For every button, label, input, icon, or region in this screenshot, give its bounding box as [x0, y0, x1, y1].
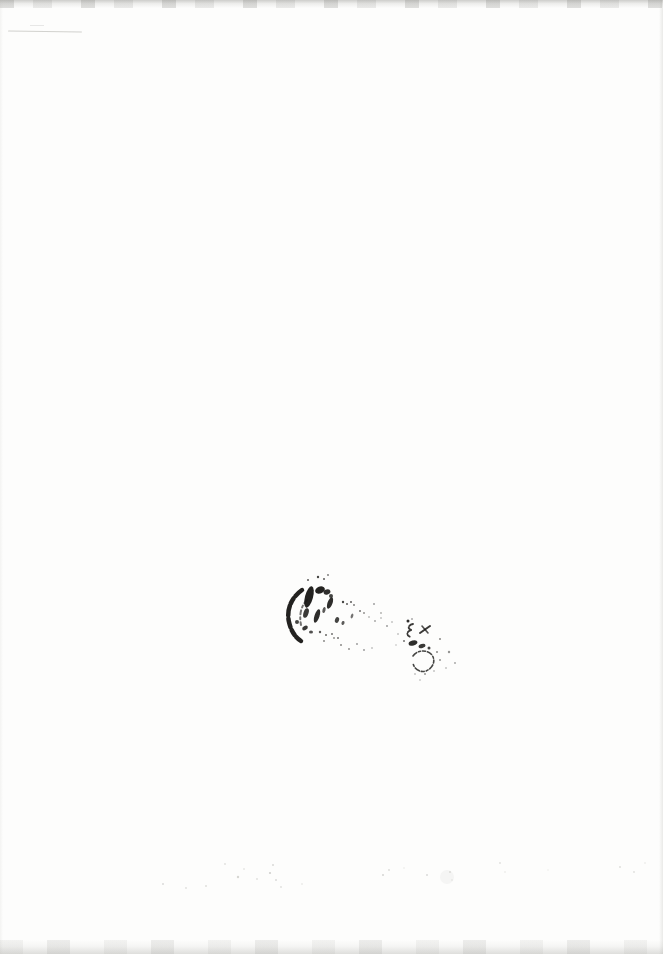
ink-stamp — [288, 574, 456, 681]
ghost-specks — [162, 862, 646, 889]
scanned-page — [0, 0, 663, 954]
